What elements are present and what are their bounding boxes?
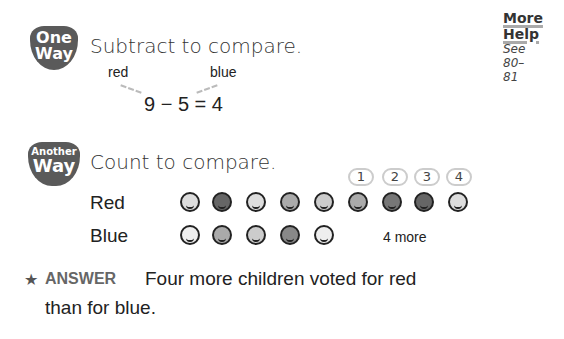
count-cloud-2: 2 <box>382 168 408 186</box>
difference-label: 4 more <box>383 229 427 245</box>
row-label-blue: Blue <box>90 225 128 247</box>
count-cloud-3: 3 <box>414 168 440 186</box>
child-face-icon <box>280 192 300 212</box>
see-line2: 80– <box>503 56 543 70</box>
another-way-badge-line2: Way <box>28 157 80 175</box>
count-cloud-4: 4 <box>446 168 472 186</box>
equation: 9 − 5 = 4 <box>144 93 223 116</box>
more-help-line1[interactable]: More <box>503 10 543 26</box>
see-line3: 81 <box>503 70 543 84</box>
arrow-red <box>120 84 141 93</box>
answer-line1: Four more children voted for red <box>145 268 416 290</box>
count-cloud-1: 1 <box>348 168 374 186</box>
more-help[interactable]: More Help See 80– 81 <box>503 10 543 84</box>
child-face-icon <box>382 192 402 212</box>
more-help-line2[interactable]: Help <box>503 26 543 42</box>
child-face-icon <box>414 192 434 212</box>
child-face-icon <box>180 192 200 212</box>
one-way-badge: One Way <box>30 26 78 70</box>
answer-line2: than for blue. <box>45 297 156 319</box>
child-face-icon <box>246 225 266 245</box>
star-icon: ★ <box>24 270 38 289</box>
child-face-icon <box>314 192 334 212</box>
child-face-icon <box>348 192 368 212</box>
another-way-title: Count to compare. <box>90 150 276 174</box>
see-line1: See <box>503 42 543 56</box>
child-face-icon <box>448 192 468 212</box>
one-way-title: Subtract to compare. <box>90 34 302 58</box>
child-face-icon <box>212 192 232 212</box>
another-way-badge: Another Way <box>28 142 80 186</box>
child-face-icon <box>280 225 300 245</box>
answer-label: ANSWER <box>45 270 116 288</box>
label-blue: blue <box>210 64 236 80</box>
row-label-red: Red <box>90 192 125 214</box>
child-face-icon <box>314 225 334 245</box>
label-red: red <box>108 64 128 80</box>
one-way-badge-line2: Way <box>30 46 78 62</box>
child-face-icon <box>212 225 232 245</box>
child-face-icon <box>246 192 266 212</box>
child-face-icon <box>180 225 200 245</box>
